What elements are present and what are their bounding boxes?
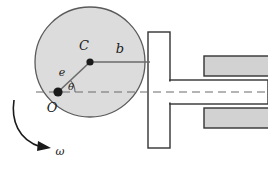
cam-follower-diagram: C O e b θ ω bbox=[0, 0, 268, 169]
cam-mechanism-drawing: C O e b θ ω bbox=[0, 0, 268, 169]
center-point-marker bbox=[86, 58, 93, 65]
lower-guide-block bbox=[204, 108, 268, 128]
label-distance-b: b bbox=[116, 41, 124, 56]
upper-guide-block bbox=[204, 56, 268, 76]
label-angle-theta: θ bbox=[68, 81, 74, 92]
label-center-C: C bbox=[79, 38, 89, 53]
label-angular-velocity-omega: ω bbox=[56, 145, 65, 158]
rotation-arrow-curve bbox=[13, 100, 41, 147]
rotation-arrowhead bbox=[37, 141, 51, 151]
label-eccentricity-e: e bbox=[59, 66, 66, 79]
label-pivot-O: O bbox=[47, 100, 58, 115]
pivot-point-marker bbox=[53, 87, 62, 96]
